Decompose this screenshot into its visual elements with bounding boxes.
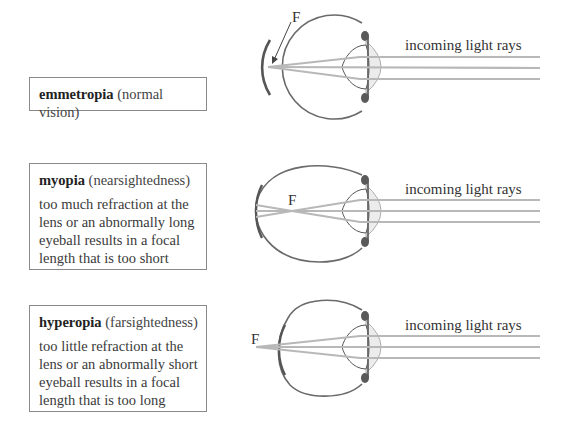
- focal-label: F: [292, 9, 300, 25]
- rays-label: incoming light rays: [405, 37, 522, 53]
- eye-diagrams: F incoming light rays F incoming light r…: [0, 0, 561, 428]
- rays-label: incoming light rays: [405, 317, 522, 333]
- light-rays: [256, 200, 540, 222]
- focal-label: F: [251, 331, 259, 347]
- focal-label: F: [288, 192, 296, 208]
- myopia-eye: F incoming light rays: [256, 166, 540, 262]
- light-rays: [268, 57, 540, 79]
- emmetropia-eye: F incoming light rays: [262, 9, 540, 119]
- hyperopia-eye: F incoming light rays: [251, 300, 540, 396]
- rays-label: incoming light rays: [405, 181, 522, 197]
- light-rays: [256, 336, 540, 358]
